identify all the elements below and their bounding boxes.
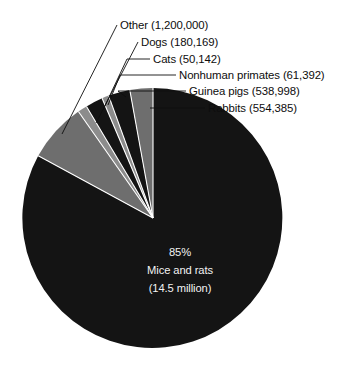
callout-label-other: Other (1,200,000) [120, 19, 209, 31]
callout-label-dogs: Dogs (180,169) [141, 36, 218, 48]
center-label-percent: 85% [169, 246, 191, 258]
pie-chart-svg: Other (1,200,000) Dogs (180,169) Cats (5… [0, 0, 363, 366]
center-label-name: Mice and rats [147, 264, 213, 276]
center-label-value: (14.5 million) [149, 282, 212, 294]
callout-label-nonhuman-primates: Nonhuman primates (61,392) [179, 69, 325, 81]
pie-chart-figure: Other (1,200,000) Dogs (180,169) Cats (5… [0, 0, 363, 366]
callout-label-guinea-pigs: Guinea pigs (538,998) [189, 85, 300, 97]
callout-label-cats: Cats (50,142) [153, 53, 221, 65]
callout-label-rabbits: Rabbits (554,385) [208, 102, 297, 114]
